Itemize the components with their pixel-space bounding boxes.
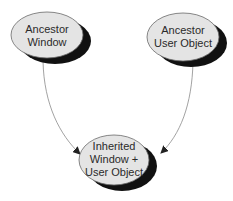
node-label-line: Ancestor (25, 23, 69, 35)
node-label-line: Ancestor (161, 24, 205, 36)
node-ancestor-window: Ancestor Window (11, 12, 91, 64)
node-label-line: User Object (85, 166, 143, 178)
node-label-line: Inherited (93, 140, 136, 152)
node-label-line: Window + (90, 153, 139, 165)
node-ancestor-user-object: Ancestor User Object (147, 13, 227, 67)
edge-userobject-to-inherited (161, 62, 193, 153)
node-label-line: Window (27, 36, 66, 48)
edge-window-to-inherited (43, 61, 80, 154)
inheritance-diagram: Ancestor Window Ancestor User Object Inh… (0, 0, 233, 201)
node-inherited: Inherited Window + User Object (79, 135, 157, 191)
node-ellipse (11, 12, 83, 58)
node-label-line: User Object (154, 37, 212, 49)
